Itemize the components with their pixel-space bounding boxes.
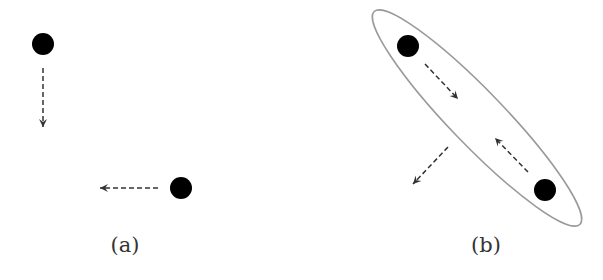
particle — [170, 177, 192, 199]
velocity-arrow-icon — [425, 64, 458, 99]
velocity-arrow-icon — [413, 147, 448, 184]
panel-a-label: (a) — [111, 233, 140, 257]
panel-a — [32, 33, 192, 199]
particle — [32, 33, 54, 55]
cluster-ellipse — [355, 0, 599, 243]
panel-b-label: (b) — [471, 233, 501, 257]
particle — [534, 179, 556, 201]
particle — [397, 35, 419, 57]
panel-b — [355, 0, 599, 243]
velocity-arrow-icon — [495, 138, 528, 172]
diagram-canvas: (a) (b) — [0, 0, 603, 280]
